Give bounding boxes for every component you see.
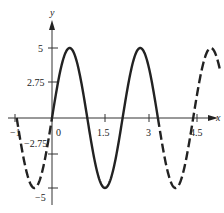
dashed-curve-left (17, 118, 52, 188)
x-tick-4-5: 4.5 (190, 127, 203, 138)
y-tick-5: 5 (38, 43, 43, 54)
chart: y x −1 0 1.5 3 4.5 5 2.75 −2.75 −5 (0, 0, 224, 213)
y-tick-2-75: 2.75 (27, 77, 45, 88)
x-tick-3: 3 (146, 127, 151, 138)
x-tick-1-5: 1.5 (97, 127, 110, 138)
y-tick-neg5: −5 (35, 192, 46, 203)
y-axis-arrow-icon (49, 20, 55, 30)
y-tick-neg2-75: −2.75 (24, 138, 47, 149)
x-tick-0: 0 (56, 127, 61, 138)
x-tick-neg1: −1 (10, 127, 21, 138)
y-axis-label: y (49, 7, 55, 18)
x-axis-label: x (215, 112, 221, 123)
